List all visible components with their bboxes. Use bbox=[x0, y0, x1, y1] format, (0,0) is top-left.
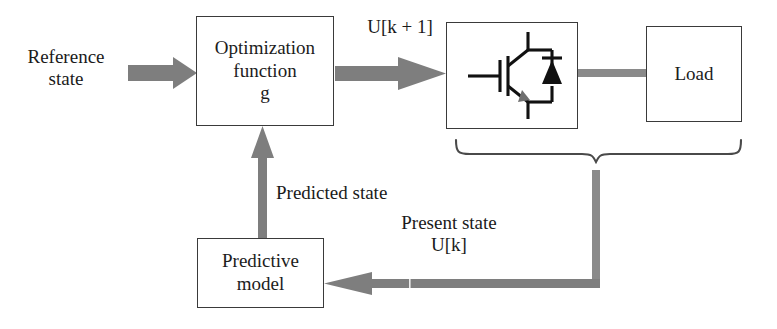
block-optimization-function[interactable]: Optimization function g bbox=[196, 16, 334, 126]
label-predicted-state: Predicted state bbox=[276, 182, 428, 204]
reference-state-line2: state bbox=[49, 68, 84, 89]
optimization-label-line2: function bbox=[215, 60, 315, 83]
optimization-label-line1: Optimization bbox=[215, 37, 315, 60]
igbt-with-antiparallel-diode-icon bbox=[446, 22, 578, 129]
optimization-label-line3: g bbox=[215, 82, 315, 105]
block-power-converter[interactable] bbox=[446, 22, 578, 129]
block-diagram-canvas: Optimization function g bbox=[0, 0, 777, 329]
present-state-line1: Present state bbox=[401, 212, 497, 233]
present-state-line2: U[k] bbox=[431, 234, 467, 255]
predictive-label-line2: model bbox=[222, 273, 299, 296]
arrow-feedback-to-predictive bbox=[324, 272, 600, 295]
label-reference-state: Reference state bbox=[8, 46, 124, 91]
predictive-label-line1: Predictive bbox=[222, 250, 299, 273]
line-converter-to-load bbox=[578, 69, 646, 77]
block-predictive-model[interactable]: Predictive model bbox=[197, 238, 324, 308]
diode-triangle bbox=[542, 60, 562, 84]
arrow-reference-to-optimization bbox=[128, 57, 197, 89]
label-u-k-plus-1: U[k + 1] bbox=[358, 16, 442, 38]
load-label: Load bbox=[674, 63, 713, 86]
label-present-state: Present state U[k] bbox=[382, 212, 516, 257]
block-load[interactable]: Load bbox=[646, 26, 742, 122]
brace-measurement bbox=[456, 140, 741, 162]
line-brace-drop bbox=[592, 170, 600, 284]
arrow-predictive-to-optimization bbox=[251, 126, 274, 238]
reference-state-line1: Reference bbox=[28, 46, 105, 67]
arrow-optimization-to-converter bbox=[335, 57, 446, 90]
